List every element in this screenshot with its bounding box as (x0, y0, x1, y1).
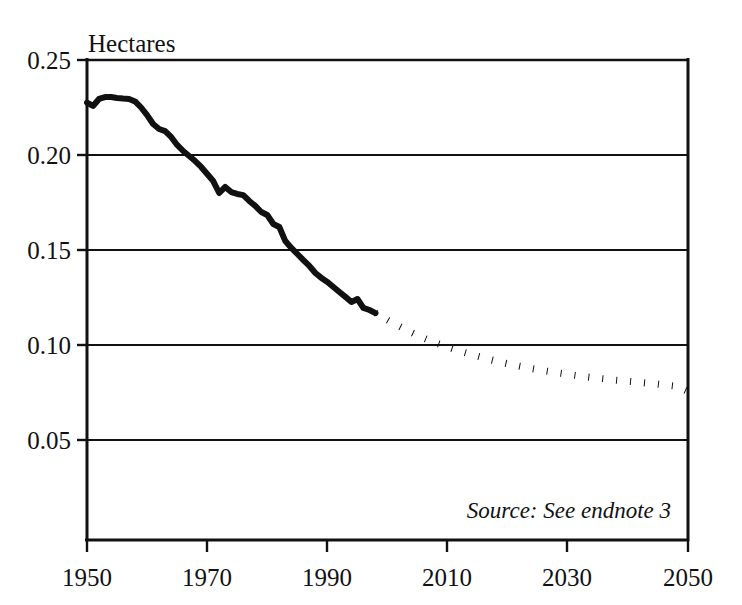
x-tick-label-1990: 1990 (302, 564, 352, 591)
x-tick-labels: 1950 1970 1990 2010 2030 2050 (62, 564, 713, 591)
x-tick-label-2050: 2050 (663, 564, 713, 591)
x-tick-label-1970: 1970 (182, 564, 232, 591)
chart-page: Hectares (0, 0, 742, 605)
x-tick-label-2010: 2010 (422, 564, 472, 591)
y-tick-label-0.10: 0.10 (27, 332, 71, 359)
series-line-historical (87, 97, 375, 313)
gridlines (87, 60, 688, 440)
x-tick-marks (87, 540, 688, 552)
x-tick-label-1950: 1950 (62, 564, 112, 591)
y-tick-labels: 0.25 0.20 0.15 0.10 0.05 (27, 47, 71, 454)
y-tick-label-0.05: 0.05 (27, 427, 71, 454)
x-tick-label-2030: 2030 (542, 564, 592, 591)
y-tick-label-0.25: 0.25 (27, 47, 71, 74)
y-axis-unit-label: Hectares (88, 30, 175, 57)
grainland-per-person-chart: Hectares (0, 0, 742, 605)
axes-frame (85, 58, 689, 541)
series-line-projected (375, 313, 688, 391)
source-note: Source: See endnote 3 (467, 498, 671, 523)
y-tick-label-0.20: 0.20 (27, 142, 71, 169)
y-tick-label-0.15: 0.15 (27, 237, 71, 264)
